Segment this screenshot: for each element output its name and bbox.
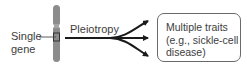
pleiotropy-label: Pleiotropy <box>70 23 119 36</box>
single-gene-label-line1: Single <box>11 30 42 43</box>
chromosome-icon <box>53 5 60 62</box>
traits-line2: (e.g., sickle-cell <box>166 34 238 47</box>
multiple-traits-text: Multiple traits (e.g., sickle-cell disea… <box>166 21 238 59</box>
traits-line3: disease) <box>166 46 238 59</box>
traits-line1: Multiple traits <box>166 21 238 34</box>
single-gene-label-line2: gene <box>11 43 35 56</box>
